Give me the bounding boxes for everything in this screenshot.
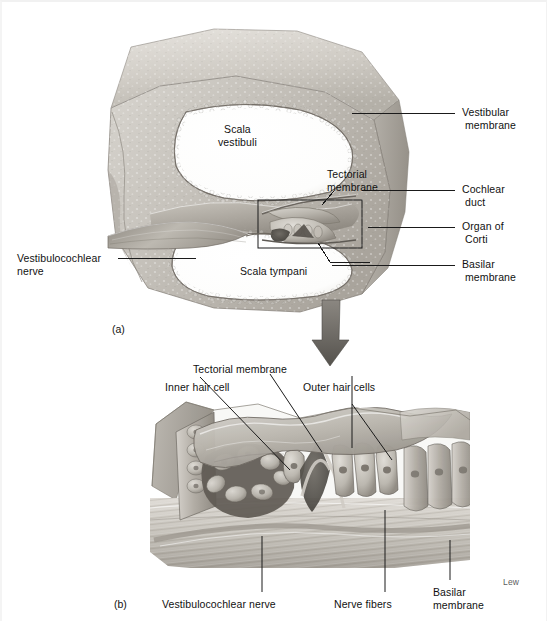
label-line-1: Scala tympani	[240, 265, 307, 277]
label-outer-hair-cells: Outer hair cells	[303, 381, 375, 394]
label-organ-of-corti: Organ of Corti	[462, 220, 504, 245]
label-line-1: Tectorial	[327, 168, 367, 180]
label-scala-tympani: Scala tympani	[240, 265, 307, 278]
label-line-1: Vestibulocochlear	[17, 252, 101, 264]
label-tectorial-membrane-b: Tectorial membrane	[193, 363, 287, 376]
label-line-2: membrane	[465, 119, 516, 132]
label-line-2: nerve	[17, 265, 101, 278]
panel-b-id: (b)	[114, 598, 127, 610]
label-line-1: Vestibulocochlear nerve	[162, 598, 276, 610]
magnification-arrow	[312, 300, 349, 366]
label-line-1: Inner hair cell	[165, 381, 230, 393]
label-line-1: Basilar	[462, 258, 495, 270]
label-line-2: membrane	[433, 599, 484, 612]
label-vestibular-membrane: Vestibular membrane	[462, 106, 516, 131]
label-basilar-membrane-a: Basilar membrane	[462, 258, 516, 283]
supporting-cells-right	[404, 442, 474, 511]
label-line-1: Basilar	[433, 586, 466, 598]
label-line-2: membrane	[327, 181, 378, 194]
label-line-1: Outer hair cells	[303, 381, 375, 393]
artist-signature: Lew	[503, 577, 519, 587]
label-line-1: Vestibular	[462, 106, 509, 118]
label-scala-vestibuli: Scala vestibuli	[218, 123, 257, 148]
label-line-1: Tectorial membrane	[193, 363, 287, 375]
label-line-2: vestibuli	[218, 136, 257, 149]
cochlea-illustration	[0, 0, 547, 621]
label-tectorial-membrane-a: Tectorial membrane	[327, 168, 378, 193]
figure-page: Vestibular membrane Cochlear duct Organ …	[0, 0, 547, 621]
label-nerve-fibers: Nerve fibers	[334, 598, 392, 611]
label-vestibulocochlear-nerve-b: Vestibulocochlear nerve	[162, 598, 276, 611]
label-vestibulocochlear-nerve-a: Vestibulocochlear nerve	[17, 252, 101, 277]
label-line-1: Nerve fibers	[334, 598, 392, 610]
panel-a-illustration	[108, 29, 455, 366]
label-line-2: Corti	[465, 233, 504, 246]
label-cochlear-duct: Cochlear duct	[462, 183, 505, 208]
label-line-2: membrane	[465, 271, 516, 284]
label-line-2: duct	[465, 196, 505, 209]
panel-b-illustration	[140, 374, 480, 592]
panel-a-id: (a)	[112, 323, 125, 335]
label-line-1: Scala	[224, 123, 251, 135]
label-basilar-membrane-b: Basilar membrane	[433, 586, 484, 611]
label-line-1: Cochlear	[462, 183, 505, 195]
label-line-1: Organ of	[462, 220, 504, 232]
label-inner-hair-cell: Inner hair cell	[165, 381, 230, 394]
